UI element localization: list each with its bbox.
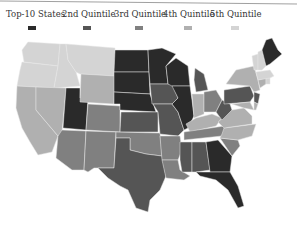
state-arkansas [160,136,182,160]
legend-item-q4: 4th Quintile [163,8,213,30]
legend-label: Top-10 States [6,8,58,20]
legend-label: 5th Quintile [210,8,260,20]
legend-label: 2nd Quintile [62,8,112,20]
legend-swatch [135,26,143,30]
state-michigan [194,68,208,92]
state-kansas [120,112,158,132]
state-north-dakota [114,50,149,72]
legend: Top-10 States 2nd Quintile 3rd Quintile … [0,8,297,36]
legend-swatch [184,26,192,30]
legend-label: 4th Quintile [163,8,213,20]
state-indiana [192,94,204,118]
state-rhode-island [266,78,270,84]
state-south-dakota [114,72,150,94]
legend-item-q3: 3rd Quintile [114,8,164,30]
top-border-line [0,1,297,4]
legend-swatch [83,26,91,30]
state-florida [196,172,244,208]
state-colorado [86,104,120,132]
legend-swatch [231,26,239,30]
state-new-mexico [84,131,116,172]
legend-item-q5: 5th Quintile [210,8,260,30]
legend-swatch [28,26,36,30]
state-wyoming [80,74,115,104]
state-mississippi [180,142,192,172]
state-arizona [56,130,86,170]
legend-item-top10: Top-10 States [6,8,58,30]
state-wisconsin [166,58,190,86]
state-oregon [17,62,58,88]
state-maine [262,38,282,66]
state-nebraska [114,92,156,112]
legend-label: 3rd Quintile [114,8,164,20]
state-massachusetts [256,70,274,80]
legend-item-q2: 2nd Quintile [62,8,112,30]
state-pennsylvania [224,86,254,104]
